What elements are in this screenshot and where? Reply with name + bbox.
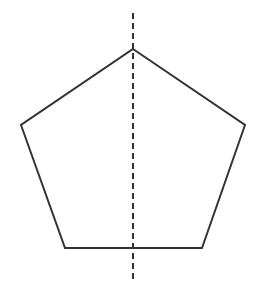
pentagon-symmetry-diagram bbox=[0, 0, 276, 304]
